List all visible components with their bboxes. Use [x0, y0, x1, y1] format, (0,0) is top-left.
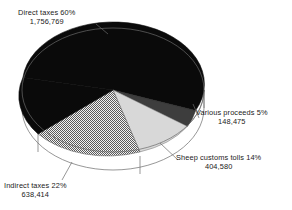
pie-chart: Direct taxes 60% 1,756,769 Various proce…	[0, 0, 292, 210]
label-indirect-taxes-value: 638,414	[4, 190, 67, 199]
label-direct-taxes: Direct taxes 60% 1,756,769	[18, 8, 75, 26]
label-various-proceeds-value: 148,475	[196, 117, 268, 126]
label-indirect-taxes-title: Indirect taxes 22%	[4, 181, 67, 190]
label-various-proceeds: Various proceeds 5% 148,475	[196, 108, 268, 126]
label-sheep-customs-tolls-title: Sheep customs tolls 14%	[176, 153, 261, 162]
pie-chart-graphic	[0, 0, 292, 210]
pie-slices	[19, 22, 205, 156]
label-various-proceeds-title: Various proceeds 5%	[196, 108, 268, 117]
label-indirect-taxes: Indirect taxes 22% 638,414	[4, 181, 67, 199]
label-sheep-customs-tolls: Sheep customs tolls 14% 404,580	[176, 153, 261, 171]
label-direct-taxes-title: Direct taxes 60%	[18, 8, 75, 17]
leader-line-indirect-taxes	[62, 162, 72, 180]
label-direct-taxes-value: 1,756,769	[18, 17, 75, 26]
label-sheep-customs-tolls-value: 404,580	[176, 162, 261, 171]
